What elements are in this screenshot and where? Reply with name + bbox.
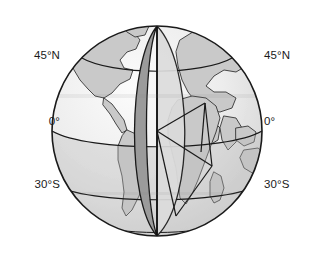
lat-label-30s-left: 30°S <box>8 179 60 191</box>
lat-label-45n-left: 45°N <box>8 50 60 62</box>
globe-diagram <box>0 0 313 263</box>
lat-label-0-right: 0° <box>264 116 312 128</box>
lat-label-30s-right: 30°S <box>264 179 312 191</box>
globe-figure: 45°N 0° 30°S 45°N 0° 30°S <box>0 0 313 263</box>
lat-label-0-left: 0° <box>8 116 60 128</box>
lat-label-45n-right: 45°N <box>264 50 312 62</box>
